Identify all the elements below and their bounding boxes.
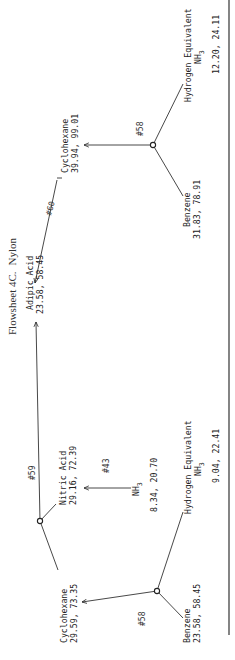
- node-formula: NH: [131, 486, 141, 496]
- node-cyclohexane-bottom: Cyclohexane 29.59, 73.35: [59, 584, 79, 643]
- edge-nitric-to-59: [40, 504, 56, 521]
- flowsheet-diagram: Flowsheet 4C.Nylon #58 Hydrogen Equivale…: [0, 0, 235, 660]
- node-subscript: 3: [136, 482, 144, 486]
- node-name: Hydrogen Equivalent: [183, 8, 193, 102]
- process-label-59: #59: [28, 465, 37, 480]
- node-benzene-bottom: Benzene 23.58, 58.45: [182, 584, 202, 643]
- edge-h2-to-58bottom: [157, 512, 183, 591]
- svg-text:NH3: NH3: [193, 462, 206, 476]
- edge-benzene-to-58top: [153, 145, 183, 196]
- edge-cyclohexane-to-59: [40, 521, 58, 570]
- svg-text:NH3: NH3: [131, 482, 144, 496]
- process-node-58-top: [150, 142, 155, 147]
- svg-text:NH3: NH3: [193, 50, 206, 64]
- node-values: 12.20, 24.11: [211, 15, 221, 74]
- node-name: Cyclohexane: [59, 589, 69, 643]
- process-node-59: [37, 518, 42, 523]
- edge-benzene-to-58bottom: [157, 591, 183, 618]
- node-name: Cyclohexane: [60, 119, 70, 173]
- node-nitric-acid: Nitric Acid 29.16, 72.39: [58, 446, 78, 505]
- node-hydrogen-equivalent-bottom: Hydrogen Equivalent NH3 9.04, 22.41: [183, 420, 221, 514]
- node-values: 29.16, 72.39: [68, 446, 78, 505]
- node-values: 8.34, 20.70: [149, 458, 159, 512]
- process-label-60: #60: [44, 200, 56, 216]
- arrow-59-to-adipic-acid: [36, 322, 40, 521]
- node-subscript: 3: [198, 50, 206, 54]
- node-values: 29.59, 73.35: [69, 584, 79, 643]
- title-text: Flowsheet 4C.: [6, 271, 18, 335]
- node-subscript: 3: [198, 462, 206, 466]
- node-benzene-top: Benzene 31.83, 78.91: [182, 180, 202, 239]
- process-label-58-top: #58: [136, 121, 145, 136]
- process-label-58-bottom: #58: [138, 611, 147, 626]
- arrow-58bottom-to-cyclohexane: [82, 591, 157, 602]
- process-label-43: #43: [102, 458, 111, 473]
- node-name: Nitric Acid: [58, 451, 68, 505]
- node-formula: NH: [193, 54, 203, 64]
- node-values: 39.94, 99.01: [70, 114, 80, 173]
- node-cyclohexane-top: Cyclohexane 39.94, 99.01: [60, 114, 80, 173]
- node-values: 23.58, 58.45: [35, 255, 45, 314]
- process-node-58-bottom: [154, 588, 159, 593]
- edge-h2-to-58top: [153, 84, 183, 145]
- node-adipic-acid: Adipic Acid 23.58, 58.45: [25, 255, 45, 314]
- node-hydrogen-equivalent-top: Hydrogen Equivalent NH3 12.20, 24.11: [183, 8, 221, 102]
- node-name: Benzene: [182, 192, 192, 227]
- node-formula: NH: [193, 466, 203, 476]
- node-name: Adipic Acid: [25, 256, 35, 310]
- node-name: Hydrogen Equivalent: [183, 420, 193, 514]
- node-values: 31.83, 78.91: [192, 180, 202, 239]
- node-name: Benzene: [182, 608, 192, 643]
- node-nh3-mid: NH3 8.34, 20.70: [131, 458, 159, 512]
- diagram-title: Flowsheet 4C.Nylon: [6, 237, 18, 335]
- node-values: 9.04, 22.41: [211, 429, 221, 483]
- subtitle-text: Nylon: [6, 237, 18, 265]
- node-values: 23.58, 58.45: [192, 584, 202, 643]
- svg-text:Flowsheet 4C.Nylon: Flowsheet 4C.Nylon: [6, 237, 18, 335]
